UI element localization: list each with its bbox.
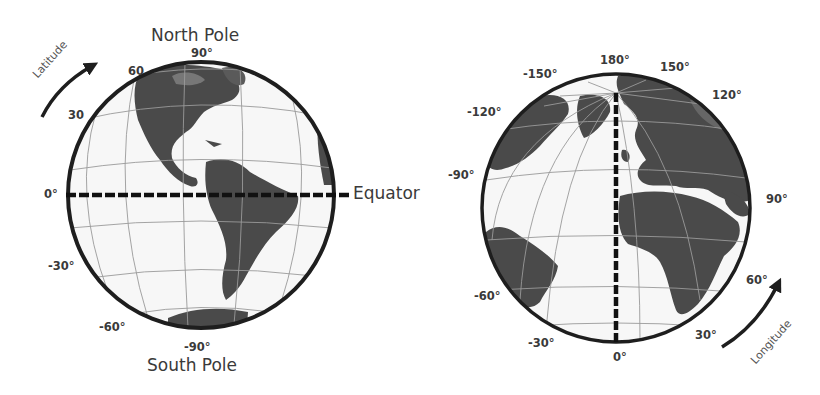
lon-tick-120: 120° bbox=[712, 88, 742, 102]
latitude-arrow-icon bbox=[42, 66, 92, 117]
lon-tick-minus90: -90° bbox=[448, 168, 475, 182]
south-pole-label: South Pole bbox=[147, 355, 237, 375]
lon-tick-minus60: -60° bbox=[474, 289, 501, 303]
lat-tick-0: 0° bbox=[44, 187, 58, 201]
lat-tick-30: 30 bbox=[68, 108, 84, 122]
lat-tick-minus60: -60° bbox=[99, 320, 126, 334]
lon-tick-180: 180° bbox=[600, 53, 630, 67]
lat-tick-minus90: -90° bbox=[184, 340, 211, 354]
latitude-globe bbox=[42, 62, 350, 340]
lon-tick-60: 60° bbox=[746, 273, 768, 287]
lat-tick-minus30: -30° bbox=[48, 259, 75, 273]
lon-tick-30: 30° bbox=[695, 328, 717, 342]
equator-label: Equator bbox=[353, 183, 420, 203]
lon-tick-0: 0° bbox=[613, 350, 627, 364]
lon-tick-150: 150° bbox=[660, 60, 690, 74]
lat-tick-60: 60 bbox=[128, 64, 144, 78]
lon-tick-90: 90° bbox=[766, 192, 788, 206]
lon-tick-minus150: -150° bbox=[523, 67, 558, 81]
north-pole-label: North Pole bbox=[151, 25, 239, 45]
lon-tick-minus120: -120° bbox=[467, 105, 502, 119]
latitude-longitude-diagram: North Pole South Pole Equator Latitude 9… bbox=[0, 0, 820, 395]
lon-tick-minus30: -30° bbox=[528, 336, 555, 350]
lat-tick-90: 90° bbox=[191, 46, 213, 60]
longitude-globe bbox=[482, 74, 778, 347]
